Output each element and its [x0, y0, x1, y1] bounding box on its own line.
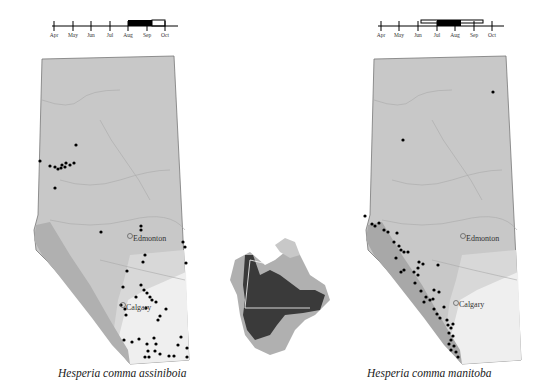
right-city-edmonton: Edmonton — [461, 234, 500, 244]
right-species-caption: Hesperia comma manitoba — [367, 367, 492, 379]
svg-text:Sep: Sep — [470, 32, 479, 38]
north-america-svg — [215, 230, 345, 360]
svg-text:Calgary: Calgary — [126, 303, 151, 312]
svg-text:May: May — [394, 32, 404, 38]
svg-text:Aug: Aug — [123, 32, 133, 38]
left-map-panel: Apr May Jun Jul Aug Sep Oct — [0, 0, 220, 386]
solid-flight-bar — [128, 20, 152, 26]
svg-text:Aug: Aug — [450, 32, 460, 38]
svg-text:Apr: Apr — [377, 32, 386, 38]
north-america-inset — [215, 230, 345, 360]
left-alberta-map: Edmonton Calgary — [34, 56, 189, 364]
svg-text:Jun: Jun — [414, 32, 422, 38]
svg-text:Apr: Apr — [50, 32, 59, 38]
right-alberta-map: Edmonton Calgary — [363, 56, 521, 364]
left-city-edmonton: Edmonton — [128, 234, 167, 244]
left-species-caption: Hesperia comma assiniboia — [58, 367, 186, 379]
right-flight-timeline: Apr May Jun Jul Aug Sep Oct — [377, 20, 504, 38]
open-flight-bar — [152, 20, 165, 26]
svg-text:Jul: Jul — [434, 32, 441, 38]
left-city-calgary: Calgary — [121, 303, 152, 313]
svg-text:Oct: Oct — [488, 32, 496, 38]
left-map-svg: Apr May Jun Jul Aug Sep Oct — [0, 0, 220, 386]
right-city-calgary: Calgary — [454, 300, 485, 309]
svg-text:Jun: Jun — [87, 32, 95, 38]
svg-text:Edmonton: Edmonton — [466, 234, 499, 243]
right-map-panel: Apr May Jun Jul Aug Sep Oct — [334, 0, 554, 386]
svg-text:May: May — [68, 32, 78, 38]
right-map-svg: Apr May Jun Jul Aug Sep Oct — [334, 0, 554, 386]
svg-text:Sep: Sep — [143, 32, 152, 38]
svg-text:Edmonton: Edmonton — [133, 234, 166, 243]
left-flight-timeline: Apr May Jun Jul Aug Sep Oct — [50, 20, 178, 38]
svg-text:Oct: Oct — [161, 32, 169, 38]
svg-text:Jul: Jul — [107, 32, 114, 38]
solid-flight-bar — [437, 20, 461, 26]
svg-text:Calgary: Calgary — [459, 300, 484, 309]
